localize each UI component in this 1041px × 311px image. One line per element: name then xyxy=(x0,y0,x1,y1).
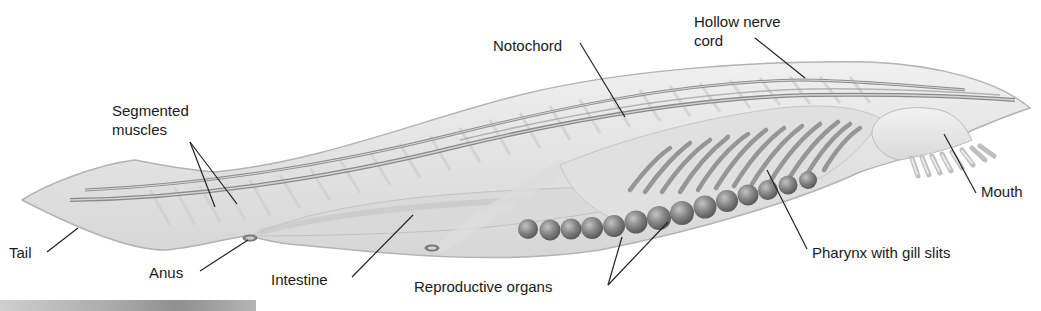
cropped-gray-bar xyxy=(0,300,256,311)
label-mouth: Mouth xyxy=(981,182,1023,201)
label-intestine: Intestine xyxy=(271,270,328,289)
label-hollow-nerve-cord-line2: cord xyxy=(694,31,781,50)
label-reproductive-organs: Reproductive organs xyxy=(414,277,552,296)
label-notochord: Notochord xyxy=(493,36,562,55)
lancelet-anatomy-diagram: Notochord Hollow nerve cord Segmented mu… xyxy=(0,0,1041,311)
label-tail: Tail xyxy=(9,243,32,262)
label-segmented-muscles-line1: Segmented xyxy=(112,101,189,120)
label-hollow-nerve-cord-line1: Hollow nerve xyxy=(694,12,781,31)
label-segmented-muscles: Segmented muscles xyxy=(112,101,189,139)
label-anus: Anus xyxy=(149,263,183,282)
label-hollow-nerve-cord: Hollow nerve cord xyxy=(694,12,781,50)
label-segmented-muscles-line2: muscles xyxy=(112,120,189,139)
label-pharynx-with-gill-slits: Pharynx with gill slits xyxy=(812,243,950,262)
